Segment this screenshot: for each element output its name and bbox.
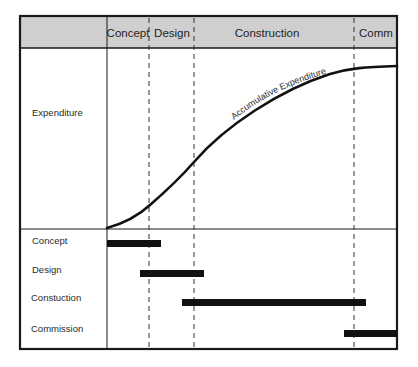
gantt-label-construction: Constuction bbox=[31, 292, 81, 303]
gantt-label-concept: Concept bbox=[32, 235, 68, 246]
curve-label-text: Accumulative Expenditure bbox=[229, 66, 327, 122]
phase-label-concept: Concept bbox=[107, 27, 151, 39]
expenditure-label: Expenditure bbox=[32, 107, 83, 118]
phase-label-commission: Comm bbox=[359, 27, 393, 39]
gantt-bar-design bbox=[140, 270, 204, 277]
gantt-bar-concept bbox=[107, 240, 161, 247]
gantt-label-design: Design bbox=[32, 264, 62, 275]
gantt-label-commission: Commission bbox=[31, 323, 83, 334]
header-band bbox=[20, 16, 397, 48]
gantt-bar-commission bbox=[344, 330, 397, 337]
phase-label-design: Design bbox=[154, 27, 190, 39]
s-curve-gantt-diagram: Concept Design Construction Comm Expendi… bbox=[0, 0, 418, 367]
gantt-bar-construction bbox=[182, 299, 366, 306]
curve-label: Accumulative Expenditure bbox=[229, 66, 327, 122]
phase-label-construction: Construction bbox=[235, 27, 300, 39]
